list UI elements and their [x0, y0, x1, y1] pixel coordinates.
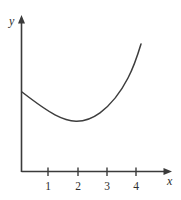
x-tick-label-3: 3 — [99, 181, 115, 193]
axis-arrow-up-icon — [18, 15, 25, 24]
x-tick-label-1: 1 — [40, 181, 56, 193]
function-graph-figure: y x 1 2 3 4 — [0, 0, 181, 200]
x-axis-label: x — [167, 175, 172, 187]
x-tick-label-2: 2 — [70, 181, 86, 193]
function-curve — [22, 44, 141, 121]
x-tick-label-4: 4 — [128, 181, 144, 193]
plot-canvas — [0, 0, 181, 200]
y-axis-label: y — [9, 15, 14, 27]
